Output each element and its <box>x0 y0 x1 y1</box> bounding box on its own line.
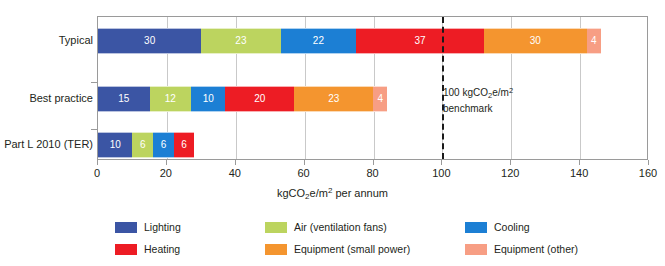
benchmark-annotation-line1: 100 kgCO2e/m2 <box>443 84 513 102</box>
legend-swatch <box>115 222 137 233</box>
x-axis-title: kgCO2e/m2 per annum <box>0 186 665 201</box>
y-axis-minor-tick <box>91 129 97 130</box>
category-label: Part L 2010 (TER) <box>0 138 93 150</box>
x-axis-tick <box>441 160 442 165</box>
x-axis-tick <box>579 160 580 165</box>
bar-segment[interactable]: 22 <box>281 28 357 54</box>
x-axis-tick <box>510 160 511 165</box>
x-axis-title-mid: e/m <box>310 187 328 199</box>
bar-segment[interactable]: 15 <box>98 86 150 112</box>
benchmark-annotation-line2: benchmark <box>443 102 513 115</box>
x-axis-tick-label: 80 <box>353 167 393 179</box>
x-axis-tick-label: 120 <box>490 167 530 179</box>
benchmark-mid: e/m <box>492 87 509 98</box>
bar-segment[interactable]: 4 <box>373 86 387 112</box>
bar-segment[interactable]: 30 <box>98 28 201 54</box>
bar-segment[interactable]: 20 <box>225 86 294 112</box>
bar-segment[interactable]: 30 <box>484 28 587 54</box>
bar-segment[interactable]: 23 <box>201 28 280 54</box>
x-axis-tick <box>648 160 649 165</box>
x-axis-tick <box>304 160 305 165</box>
bar-segment[interactable]: 6 <box>174 132 195 158</box>
legend-item[interactable]: Air (ventilation fans) <box>265 221 465 233</box>
legend-label: Equipment (small power) <box>294 243 410 255</box>
x-axis-tick-label: 40 <box>215 167 255 179</box>
bar-segment[interactable]: 4 <box>587 28 601 54</box>
legend-swatch <box>265 222 287 233</box>
legend-swatch <box>465 222 487 233</box>
bar-track: 15121020234 <box>98 86 387 112</box>
x-axis-title-suffix: per annum <box>332 187 388 199</box>
x-axis-tick <box>97 160 98 165</box>
legend-label: Lighting <box>144 221 181 233</box>
legend-swatch <box>265 244 287 255</box>
x-axis-tick-label: 140 <box>559 167 599 179</box>
x-axis-tick-label: 160 <box>628 167 665 179</box>
legend-swatch <box>115 244 137 255</box>
legend-label: Equipment (other) <box>494 243 578 255</box>
legend-item[interactable]: Lighting <box>115 221 265 233</box>
benchmark-prefix: 100 kgCO <box>443 87 488 98</box>
bar-segment[interactable]: 6 <box>153 132 174 158</box>
legend-item[interactable]: Equipment (other) <box>465 243 635 255</box>
legend-label: Cooling <box>494 221 530 233</box>
bar-segment[interactable]: 10 <box>191 86 225 112</box>
x-axis-tick-label: 20 <box>146 167 186 179</box>
x-axis-title-prefix: kgCO <box>277 187 305 199</box>
legend-swatch <box>465 244 487 255</box>
x-axis-tick <box>373 160 374 165</box>
legend-label: Air (ventilation fans) <box>294 221 387 233</box>
x-axis-tick-label: 0 <box>77 167 117 179</box>
category-label: Typical <box>0 34 93 46</box>
category-label: Best practice <box>0 92 93 104</box>
legend-item[interactable]: Heating <box>115 243 265 255</box>
legend: LightingAir (ventilation fans)CoolingHea… <box>115 216 635 260</box>
y-axis-minor-tick <box>91 82 97 83</box>
bar-segment[interactable]: 6 <box>132 132 153 158</box>
plot-area: 302322373041512102023410666 <box>97 16 648 160</box>
bar-segment[interactable]: 10 <box>98 132 132 158</box>
x-axis-tick-label: 60 <box>284 167 324 179</box>
bar-track: 30232237304 <box>98 28 601 54</box>
bar-track: 10666 <box>98 132 194 158</box>
legend-item[interactable]: Equipment (small power) <box>265 243 465 255</box>
benchmark-sup: 2 <box>509 86 513 95</box>
bar-segment[interactable]: 37 <box>356 28 483 54</box>
benchmark-annotation: 100 kgCO2e/m2 benchmark <box>443 84 513 115</box>
x-axis-tick <box>235 160 236 165</box>
legend-label: Heating <box>144 243 180 255</box>
bar-segment[interactable]: 23 <box>294 86 373 112</box>
stacked-bar-chart: 302322373041512102023410666 TypicalBest … <box>0 0 665 266</box>
x-axis-tick <box>166 160 167 165</box>
x-axis-tick-label: 100 <box>421 167 461 179</box>
legend-item[interactable]: Cooling <box>465 221 635 233</box>
bar-segment[interactable]: 12 <box>150 86 191 112</box>
